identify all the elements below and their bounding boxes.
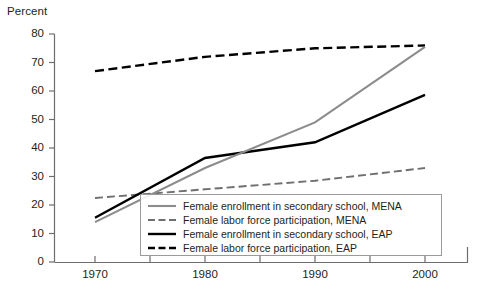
legend-swatch-dashed-gray-icon [147,214,177,226]
legend-swatch-dashed-black-icon [147,242,177,254]
legend-swatch-solid-gray-icon [147,200,177,212]
legend-item-0: Female enrollment in secondary school, M… [147,199,441,213]
legend-item-2: Female enrollment in secondary school, E… [147,227,441,241]
y-axis-ticks [49,34,55,262]
chart-legend: Female enrollment in secondary school, M… [140,194,442,256]
series-line-female-labor-force-participation-eap [95,45,425,71]
chart-figure: Percent 80 70 60 50 40 30 20 10 0 1970 1… [0,0,483,297]
legend-label-3: Female labor force participation, EAP [183,242,357,254]
legend-item-1: Female labor force participation, MENA [147,213,441,227]
legend-swatch-solid-black-icon [147,228,177,240]
legend-item-3: Female labor force participation, EAP [147,241,441,255]
legend-label-1: Female labor force participation, MENA [183,214,366,226]
legend-label-0: Female enrollment in secondary school, M… [183,200,402,212]
legend-label-2: Female enrollment in secondary school, E… [183,228,393,240]
